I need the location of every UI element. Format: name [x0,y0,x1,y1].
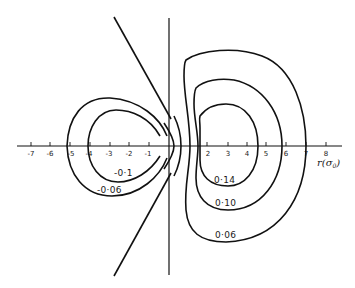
contour-label-neg-006: -0·06 [97,185,122,195]
contour-pos-014 [200,104,258,186]
tick-label: -3 [106,150,113,158]
tick-label: 5 [264,150,268,158]
contour-diagram: -7 -6 -5 -4 -3 -2 -1 2 3 4 5 6 7 8 r(σ0) [0,0,355,288]
tick-label: -7 [28,150,35,158]
tick-label: 6 [284,150,289,158]
tick-label: -6 [47,150,55,158]
tick-label: 4 [245,150,250,158]
asymptote-lower [114,173,171,276]
tick-label: -2 [126,150,133,158]
contour-label-pos-006: 0·06 [215,230,236,240]
tick-label: 3 [226,150,230,158]
asymptote-upper [114,17,171,119]
contour-label-pos-014: 0·14 [214,175,235,185]
contour-label-pos-010: 0·10 [215,198,236,208]
contour-label-neg-01: -0·1 [114,168,133,178]
tick-label: 2 [206,150,210,158]
tick-label: -1 [145,150,152,158]
axis-title: r(σ0) [317,157,340,169]
axis-tick-labels: -7 -6 -5 -4 -3 -2 -1 2 3 4 5 6 7 8 [28,150,329,158]
